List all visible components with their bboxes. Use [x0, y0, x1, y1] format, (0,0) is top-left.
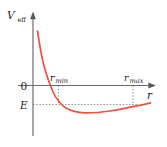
plot-canvas: V eff r 0 E r min r max — [0, 0, 167, 147]
energy-tick-label: E — [19, 99, 28, 111]
r-max-label-subscript: max — [130, 77, 144, 85]
x-axis-arrowhead — [148, 83, 156, 89]
x-axis-label: r — [147, 89, 153, 101]
y-axis-label-main: V — [7, 9, 16, 21]
origin-tick-label: 0 — [21, 80, 28, 92]
y-axis-label-subscript: eff — [18, 16, 27, 24]
r-min-label-subscript: min — [56, 77, 69, 85]
effective-potential-figure: V eff r 0 E r min r max — [0, 0, 167, 147]
y-axis-arrowhead — [30, 12, 36, 20]
